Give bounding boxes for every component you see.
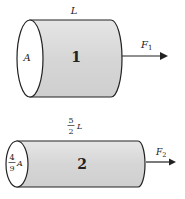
- cylinder-2: 4 9 A 2 F2: [6, 141, 176, 187]
- cylinder-2-area-numerator: 4: [9, 153, 14, 162]
- cylinder-2-length-var: L: [76, 122, 82, 131]
- cylinder-1-area-label: A: [22, 52, 30, 63]
- force-2-label: F2: [155, 147, 166, 159]
- force-1-label: F1: [140, 39, 152, 52]
- force-2-arrowhead-icon: [169, 159, 176, 166]
- cylinder-1-length: L: [70, 5, 78, 16]
- cylinder-2-area-denominator: 9: [9, 164, 14, 173]
- cylinder-2-area-var: A: [16, 159, 23, 168]
- cylinder-2-length-numerator: 5: [68, 116, 73, 125]
- cylinder-1-number: 1: [71, 49, 81, 65]
- cylinder-2-number: 2: [77, 156, 87, 172]
- force-1-arrowhead-icon: [160, 52, 168, 60]
- cylinder-2-length-denominator: 2: [68, 127, 73, 136]
- cylinder-1: A 1 F1: [17, 20, 168, 97]
- diagram-canvas: A 1 F1 L 4 9 A 2 F2 5 2 L: [0, 0, 185, 199]
